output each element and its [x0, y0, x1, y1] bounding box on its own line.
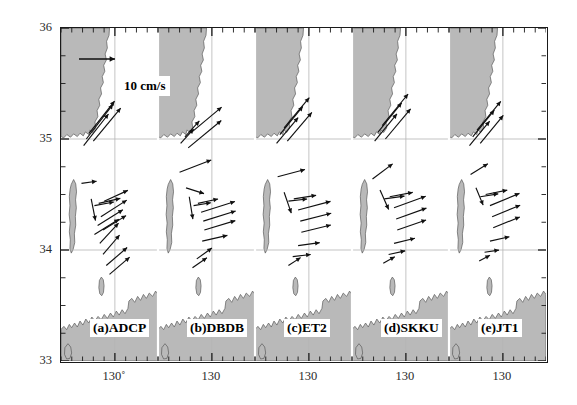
current-vector — [188, 121, 221, 148]
vector-arrowhead — [92, 216, 97, 221]
island-small — [390, 277, 395, 296]
vector-arrowhead — [408, 191, 413, 196]
panel-label-a: (a)ADCP — [90, 319, 149, 337]
current-vector — [300, 213, 331, 221]
legend-arrowhead — [110, 56, 115, 61]
panel-label-d: (d)SKKU — [381, 319, 442, 337]
y-tick-label: 33 — [0, 353, 52, 368]
island-small — [487, 277, 492, 296]
current-vector — [396, 208, 426, 219]
island-small — [293, 277, 298, 296]
panel-label-c: (c)ET2 — [284, 319, 330, 337]
island-tsushima — [263, 180, 270, 254]
panel-label-b: (b)DBDB — [187, 319, 247, 337]
land-east-coast — [352, 28, 401, 138]
current-vector — [180, 160, 212, 172]
island-tsushima — [69, 180, 76, 254]
x-tick-label: 130˚ — [102, 369, 125, 384]
vector-arrowhead — [202, 258, 207, 263]
x-tick-label: 130 — [493, 369, 512, 384]
island-tsushima — [360, 180, 367, 254]
vector-arrowhead — [311, 194, 316, 199]
y-tick-label: 36 — [0, 20, 52, 35]
vector-arrowhead — [115, 197, 120, 201]
vector-arrowhead — [288, 208, 292, 213]
island-tsushima — [457, 180, 464, 254]
vector-arrowhead — [504, 236, 509, 240]
x-tick-label: 130 — [202, 369, 221, 384]
vector-arrowhead — [326, 212, 331, 216]
x-tick-label: 130 — [299, 369, 318, 384]
island-small — [196, 277, 201, 296]
vector-arrowhead — [213, 198, 218, 202]
vector-arrowhead — [222, 234, 227, 238]
vector-arrowhead — [326, 224, 331, 228]
vector-arrowhead — [421, 219, 426, 223]
current-vector — [203, 211, 235, 221]
x-tick-label: 130 — [396, 369, 415, 384]
island-tsushima — [166, 180, 173, 254]
vector-arrowhead — [410, 237, 415, 241]
current-vector — [298, 201, 330, 210]
current-vector — [204, 221, 235, 230]
island-small — [99, 277, 104, 296]
legend-label: 10 cm/s — [120, 76, 170, 96]
current-vector — [394, 196, 426, 208]
figure-root: 36353433 130˚130130130130 (a)ADCP(b)DBDB… — [0, 0, 577, 405]
current-vector — [101, 200, 127, 217]
land-east-coast — [449, 28, 498, 138]
vector-arrowhead — [190, 214, 195, 219]
current-vector — [191, 107, 221, 132]
y-tick-label: 34 — [0, 242, 52, 257]
y-tick-label: 35 — [0, 131, 52, 146]
panel-label-e: (e)JT1 — [478, 319, 522, 337]
